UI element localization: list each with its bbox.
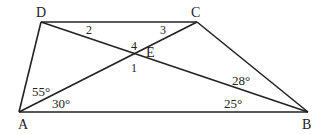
vertex-label-c: C xyxy=(191,5,200,20)
vertex-label-e: E xyxy=(146,45,155,60)
angle-label-1: 1 xyxy=(131,61,137,75)
angle-label-cbd: 28° xyxy=(232,73,250,88)
diagonal-db xyxy=(41,22,308,112)
vertex-label-b: B xyxy=(302,117,311,132)
vertex-label-a: A xyxy=(18,117,29,132)
angle-label-2: 2 xyxy=(86,23,92,37)
segment-bc xyxy=(197,22,308,112)
vertex-label-d: D xyxy=(36,5,46,20)
angle-label-4: 4 xyxy=(131,39,137,53)
trapezoid-diagram: D C A B E 2 3 4 1 55° 30° 28° 25° xyxy=(0,0,328,134)
angle-label-3: 3 xyxy=(160,23,166,37)
angle-label-cab: 30° xyxy=(52,96,70,111)
angle-label-dac: 55° xyxy=(32,84,50,99)
angle-label-dba: 25° xyxy=(224,96,242,111)
